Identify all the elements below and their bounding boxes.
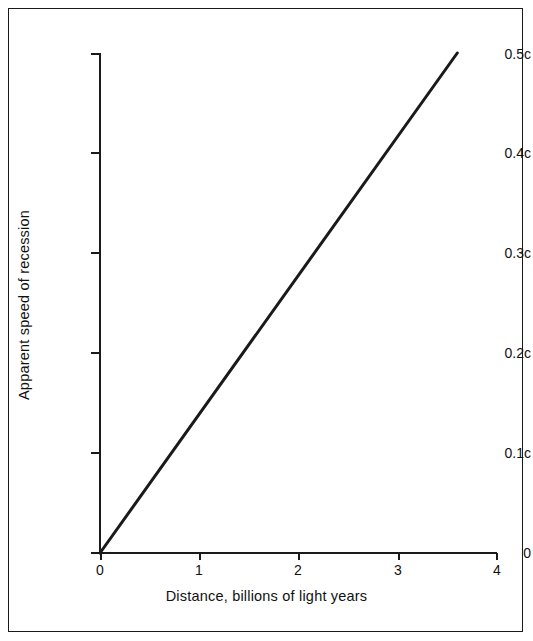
data-series-line bbox=[0, 0, 533, 641]
x-axis-title: Distance, billions of light years bbox=[0, 588, 533, 604]
figure-canvas: 0 1 2 3 4 0 0.1c 0.2c 0.3c 0.4c 0.5c Dis… bbox=[0, 0, 533, 641]
plot-area: 0 1 2 3 4 0 0.1c 0.2c 0.3c 0.4c 0.5c Dis… bbox=[0, 0, 533, 641]
y-axis-title: Apparent speed of recession bbox=[16, 175, 32, 435]
